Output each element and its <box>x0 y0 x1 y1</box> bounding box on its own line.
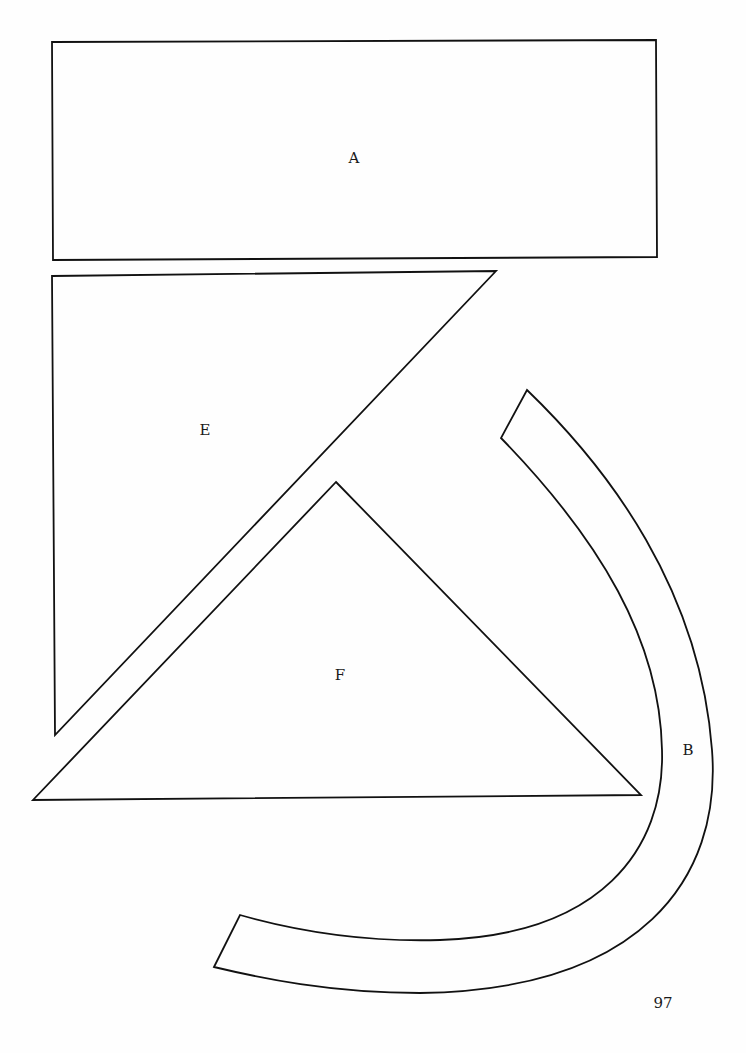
shape-e-label: E <box>200 421 211 439</box>
shape-b-curved-band <box>214 390 713 993</box>
page-number: 97 <box>653 994 672 1012</box>
shape-f-triangle <box>33 482 641 800</box>
shape-f-label: F <box>335 666 345 684</box>
shape-a-label: A <box>349 149 360 167</box>
pattern-shapes <box>0 0 746 1053</box>
shape-b-label: B <box>682 741 693 759</box>
shape-e-triangle <box>52 271 496 735</box>
document-page: A E F B 97 <box>0 0 746 1053</box>
